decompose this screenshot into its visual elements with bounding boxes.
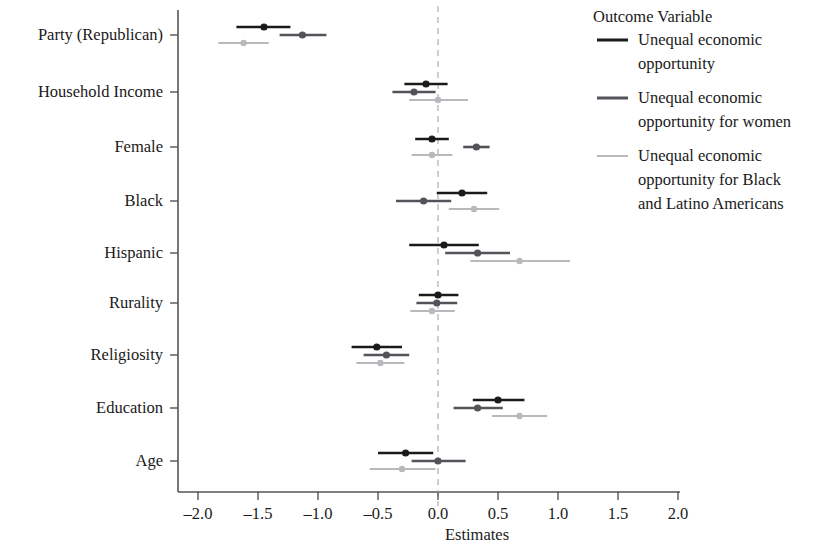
x-axis-tick-label: 0.5 (488, 504, 509, 523)
legend-entry: Unequal economicopportunity for Blackand… (597, 146, 784, 213)
estimate-row-marker (356, 360, 404, 365)
y-axis-label: Party (Republican) (38, 25, 163, 44)
estimate-row-marker (364, 352, 410, 358)
legend-entries: Unequal economicopportunityUnequal econo… (597, 30, 791, 213)
legend-entry: Unequal economicopportunity (597, 30, 762, 73)
estimate-row-marker (280, 32, 327, 38)
x-axis-tick-label: 1.5 (608, 504, 629, 523)
x-axis-tick-label: –1.5 (243, 504, 273, 523)
estimate-row-marker (463, 144, 489, 150)
legend-entry-label: Unequal economic (638, 88, 762, 107)
legend-entry-label: Unequal economic (638, 146, 762, 165)
legend-entry-label: Unequal economic (638, 30, 762, 49)
estimate-row-marker (404, 81, 447, 87)
estimate-row-marker (370, 466, 436, 471)
estimate-row-marker (437, 190, 487, 196)
y-axis-label: Hispanic (104, 243, 163, 262)
estimate-row-marker (236, 24, 290, 30)
y-axis-ticks (170, 35, 178, 461)
estimate-row-marker (392, 89, 435, 95)
y-axis-label: Rurality (109, 293, 164, 312)
estimate-row-marker (454, 405, 503, 411)
x-axis-tick-label: –0.5 (363, 504, 393, 523)
legend-entry-label: opportunity for Black (638, 170, 782, 189)
estimate-row-marker (396, 198, 451, 204)
estimate-row-marker (419, 292, 459, 298)
x-axis-tick-labels: –2.0–1.5–1.0–0.50.00.51.01.52.0 (183, 504, 689, 523)
estimate-row-marker (352, 344, 402, 350)
y-axis-label: Household Income (38, 82, 163, 101)
estimate-row-marker (412, 152, 453, 157)
estimate-row-marker (412, 458, 466, 464)
y-axis-label: Education (96, 398, 163, 417)
coefficient-plot-figure: Party (Republican)Household IncomeFemale… (0, 0, 820, 547)
estimate-row-marker (410, 308, 454, 313)
estimate-row-marker (415, 136, 449, 142)
estimate-row-marker (473, 397, 525, 403)
legend-entry: Unequal economicopportunity for women (597, 88, 791, 131)
x-axis-ticks (198, 492, 678, 500)
x-axis-tick-label: –1.0 (303, 504, 333, 523)
estimate-row-marker (218, 40, 268, 45)
x-axis-title: Estimates (445, 525, 509, 544)
legend-entry-label: and Latino Americans (638, 194, 784, 213)
y-axis-label: Religiosity (91, 345, 164, 364)
x-axis-tick-label: –2.0 (183, 504, 213, 523)
legend-title: Outcome Variable (593, 7, 712, 26)
estimate-markers (218, 24, 570, 472)
estimate-row-marker (409, 242, 479, 248)
x-axis-tick-label: 1.0 (548, 504, 569, 523)
legend: Outcome Variable Unequal economicopportu… (593, 7, 791, 213)
estimate-row-marker (416, 300, 457, 306)
estimate-row-marker (409, 97, 468, 102)
y-axis-label: Female (114, 137, 163, 156)
x-axis-tick-label: 0.0 (428, 504, 449, 523)
legend-entry-label: opportunity for women (638, 112, 791, 131)
x-axis-tick-label: 2.0 (668, 504, 689, 523)
estimate-row-marker (445, 250, 510, 256)
y-axis-labels: Party (Republican)Household IncomeFemale… (38, 25, 164, 470)
y-axis-label: Age (136, 451, 164, 470)
y-axis-label: Black (125, 191, 164, 210)
plot-canvas: Party (Republican)Household IncomeFemale… (0, 0, 820, 547)
estimate-row-marker (378, 450, 433, 456)
estimate-row-marker (470, 258, 570, 263)
estimate-row-marker (449, 206, 499, 211)
legend-entry-label: opportunity (638, 54, 716, 73)
estimate-row-marker (492, 413, 547, 418)
